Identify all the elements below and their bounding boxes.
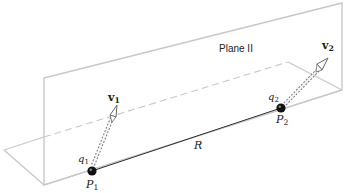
velocity-subscript: 1 [114, 96, 119, 105]
point-subscript: 1 [93, 183, 98, 192]
charge-p2-highlight [279, 106, 281, 108]
plane-label-text: Plane II [219, 43, 253, 54]
velocity-subscript: 2 [328, 44, 333, 53]
geometry-svg [0, 0, 350, 193]
charge-subscript: 2 [274, 96, 278, 104]
charge-label-q1: q1 [78, 154, 89, 166]
separation-label: R [194, 140, 202, 151]
velocity-label-v2: v2 [322, 40, 334, 53]
charge-p1-highlight [90, 169, 92, 171]
base-plane-back-left-edge [4, 137, 44, 150]
charge-p1-dot [87, 166, 96, 175]
base-plane [4, 62, 342, 185]
charge-label-q2: q2 [268, 92, 279, 104]
charge-p2-dot [276, 103, 285, 112]
velocity-label-v1: v1 [108, 92, 120, 105]
point-label-p1: P1 [86, 179, 98, 192]
base-plane-left-edge [4, 150, 44, 185]
separation-label-text: R [194, 139, 202, 152]
plane-label: Plane II [219, 44, 253, 54]
velocity-arrow-v1 [93, 105, 117, 165]
base-plane-hidden-edge [44, 62, 288, 137]
charge-subscript: 1 [84, 158, 88, 166]
point-label-p2: P2 [276, 114, 288, 127]
diagram-canvas: Plane II v1 v2 q1 q2 P1 P2 R [0, 0, 350, 193]
point-subscript: 2 [283, 118, 288, 127]
separation-line [92, 108, 281, 171]
base-plane-right-edge [288, 62, 342, 90]
